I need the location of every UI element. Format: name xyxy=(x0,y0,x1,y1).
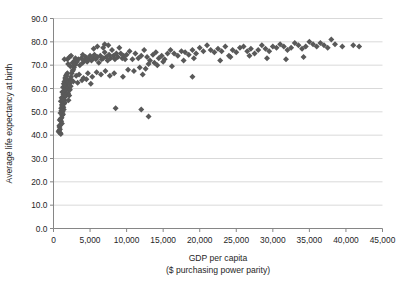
data-point xyxy=(89,74,95,80)
x-tick-label: 5,000 xyxy=(80,235,101,245)
data-point xyxy=(169,63,175,69)
data-point xyxy=(301,54,307,60)
y-tick-label: 70.0 xyxy=(31,60,48,70)
data-point xyxy=(85,70,91,76)
y-tick-label: 80.0 xyxy=(31,37,48,47)
data-point xyxy=(146,114,152,120)
data-point xyxy=(132,51,138,57)
x-tick-label: 15,000 xyxy=(150,235,176,245)
data-points xyxy=(56,37,362,138)
data-point xyxy=(131,68,137,74)
data-point xyxy=(189,74,195,80)
x-axis-title: GDP per capita xyxy=(189,253,248,263)
data-point xyxy=(143,66,149,72)
data-point xyxy=(113,105,119,111)
x-tick-labels: 05,00010,00015,00020,00025,00030,00035,0… xyxy=(51,235,395,245)
y-axis-title: Average life expectancy at birth xyxy=(4,63,14,183)
data-point xyxy=(204,42,210,48)
data-point xyxy=(120,74,126,80)
x-tick-label: 45,000 xyxy=(370,235,396,245)
y-tick-label: 30.0 xyxy=(31,154,48,164)
y-tick-labels: 0.010.020.030.040.050.060.070.080.090.0 xyxy=(31,14,48,234)
data-point xyxy=(283,56,289,62)
data-point xyxy=(140,72,146,78)
x-tick-label: 0 xyxy=(51,235,56,245)
data-point xyxy=(339,44,345,50)
data-point xyxy=(109,47,115,53)
x-tick-label: 30,000 xyxy=(260,235,286,245)
data-point xyxy=(125,67,131,73)
y-tick-label: 10.0 xyxy=(31,200,48,210)
data-point xyxy=(217,58,223,64)
data-point xyxy=(102,68,108,74)
y-tick-label: 0.0 xyxy=(36,224,48,234)
data-point xyxy=(141,47,147,53)
data-point xyxy=(181,58,187,64)
data-point xyxy=(350,42,356,48)
x-tick-label: 10,000 xyxy=(114,235,140,245)
x-tick-label: 35,000 xyxy=(297,235,323,245)
scatter-chart: 0.010.020.030.040.050.060.070.080.090.0 … xyxy=(0,0,406,286)
x-tick-label: 40,000 xyxy=(333,235,359,245)
y-tick-label: 50.0 xyxy=(31,107,48,117)
axis-lines xyxy=(50,19,383,233)
data-point xyxy=(356,44,362,50)
data-point xyxy=(116,45,122,51)
data-point xyxy=(88,81,94,87)
y-tick-label: 40.0 xyxy=(31,130,48,140)
data-point xyxy=(222,44,228,50)
x-tick-label: 20,000 xyxy=(187,235,213,245)
y-tick-label: 20.0 xyxy=(31,177,48,187)
data-point xyxy=(264,55,270,61)
x-axis-title-line2: ($ purchasing power parity) xyxy=(166,265,270,275)
data-point xyxy=(129,56,135,62)
y-tick-label: 90.0 xyxy=(31,14,48,24)
x-tick-label: 25,000 xyxy=(223,235,249,245)
y-tick-label: 60.0 xyxy=(31,84,48,94)
chart-plot-area: 0.010.020.030.040.050.060.070.080.090.0 … xyxy=(0,0,406,286)
